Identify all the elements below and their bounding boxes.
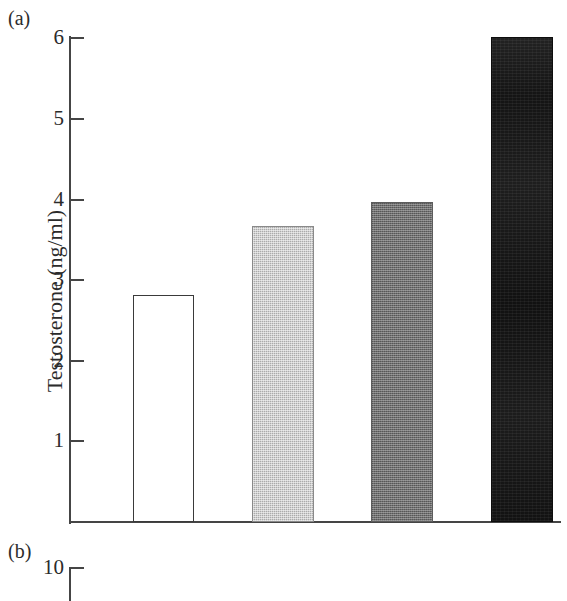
y-tick-label-3: 3 <box>38 269 64 290</box>
bar-4 <box>491 37 553 522</box>
panel-b-y-tick-10 <box>71 567 84 569</box>
panel-a-label: (a) <box>8 8 30 28</box>
y-tick-label-4: 4 <box>38 189 64 210</box>
bar-3 <box>371 202 433 522</box>
panel-b-y-axis-line <box>69 567 71 601</box>
y-tick-5 <box>71 118 84 120</box>
y-tick-label-6: 6 <box>38 27 64 48</box>
y-tick-4 <box>71 199 84 201</box>
panel-b-y-tick-label-10: 10 <box>30 557 64 578</box>
y-tick-1 <box>71 440 84 442</box>
figure-container: (a) Testosterone (ng/ml) 6 5 4 3 2 1 <box>0 0 567 601</box>
y-tick-label-5: 5 <box>38 108 64 129</box>
y-tick-label-2: 2 <box>38 350 64 371</box>
panel-b-label: (b) <box>8 541 31 561</box>
y-tick-label-1: 1 <box>38 430 64 451</box>
y-tick-6 <box>71 37 84 39</box>
bar-1 <box>133 295 194 522</box>
bar-2 <box>252 226 314 522</box>
y-tick-3 <box>71 279 84 281</box>
y-tick-2 <box>71 360 84 362</box>
